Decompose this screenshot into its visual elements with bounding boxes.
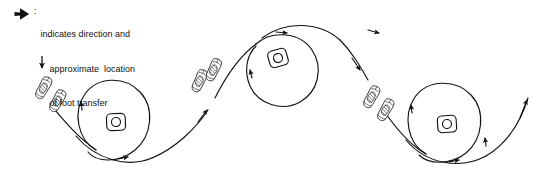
figure-canvas: : indicates direction and approximate lo… <box>0 0 553 178</box>
right-arrowhead-icon <box>14 7 30 21</box>
arrowhead-right-loop-inner <box>485 138 486 146</box>
legend-text: indicates direction and approximate loca… <box>41 6 136 133</box>
middle-spin-center-marker <box>267 47 290 68</box>
arrowhead-right-loop-left <box>411 105 412 113</box>
shoe-icon <box>362 84 382 109</box>
path-right-entry <box>382 108 426 154</box>
path-arrowheads-group <box>81 30 527 162</box>
shoe-icon <box>190 68 209 93</box>
arrowhead-middle-upper-right <box>368 30 379 33</box>
arrowhead-middle-loop-top <box>276 32 287 33</box>
legend-colon: : <box>34 6 37 18</box>
foot-transfer-right <box>362 84 396 122</box>
legend-line-1: indicates direction and <box>41 29 136 41</box>
path-left-to-middle-lower <box>76 136 152 162</box>
shoe-icon <box>376 97 396 122</box>
foot-transfer-middle <box>190 57 223 93</box>
arrowhead-to-middle-transfer <box>198 110 207 122</box>
path-middle-upper-arc <box>262 25 340 40</box>
path-left-to-middle-rise <box>152 110 208 158</box>
legend-line-2: approximate location <box>41 64 136 76</box>
legend: : indicates direction and approximate lo… <box>14 6 135 133</box>
arrowhead-middle-loop-left <box>250 70 252 78</box>
legend-line-3: of foot transfer <box>41 98 136 110</box>
path-exit-segment <box>486 98 528 156</box>
right-spin-center-marker <box>437 115 457 133</box>
path-middle-loop <box>247 35 319 107</box>
shoe-icon <box>204 57 223 82</box>
arrowhead-exit-up <box>520 100 527 118</box>
